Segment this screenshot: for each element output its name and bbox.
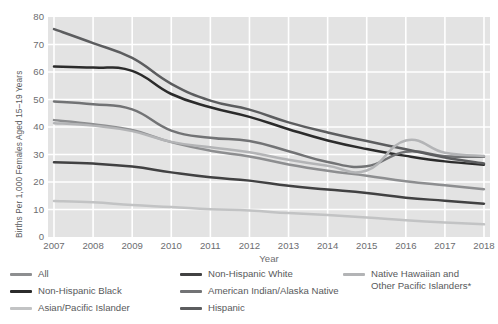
- series-line: [54, 29, 484, 163]
- legend-color-swatch: [10, 307, 32, 310]
- y-tick-label: 60: [18, 67, 44, 77]
- plot-svg: [48, 17, 490, 237]
- legend-item[interactable]: All: [10, 268, 130, 285]
- legend-color-swatch: [10, 273, 32, 276]
- legend-color-swatch: [180, 307, 202, 310]
- x-tick-label: 2008: [75, 240, 111, 252]
- y-tick-label: 10: [18, 205, 44, 215]
- legend-column: Native Hawaiian and Other Pacific Island…: [343, 268, 471, 298]
- legend-color-swatch: [180, 290, 202, 293]
- legend-item[interactable]: Native Hawaiian and Other Pacific Island…: [343, 268, 471, 298]
- legend-item-label: American Indian/Alaska Native: [208, 285, 339, 297]
- legend-item[interactable]: American Indian/Alaska Native: [180, 285, 339, 302]
- y-tick-label: 70: [18, 40, 44, 50]
- legend-color-swatch: [10, 290, 32, 293]
- legend-column: Non-Hispanic WhiteAmerican Indian/Alaska…: [180, 268, 339, 319]
- x-tick-label: 2012: [231, 240, 267, 252]
- x-tick-label: 2010: [153, 240, 189, 252]
- x-tick-label: 2017: [427, 240, 463, 252]
- legend-color-swatch: [180, 273, 202, 276]
- legend-item[interactable]: Non-Hispanic White: [180, 268, 339, 285]
- y-tick-label: 50: [18, 95, 44, 105]
- y-tick-label: 80: [18, 12, 44, 22]
- legend-item[interactable]: Asian/Pacific Islander: [10, 302, 130, 319]
- legend-item-label: Native Hawaiian and Other Pacific Island…: [371, 268, 471, 292]
- legend-item-label: Non-Hispanic White: [208, 268, 293, 280]
- y-axis-tick-labels: 80706050403020100: [18, 0, 44, 244]
- y-axis-title-container: Births Per 1,000 Females Aged 15–19 Year…: [0, 0, 18, 244]
- x-tick-label: 2007: [36, 240, 72, 252]
- series-line: [54, 201, 484, 224]
- legend-item-label: Asian/Pacific Islander: [38, 302, 130, 314]
- x-tick-label: 2016: [388, 240, 424, 252]
- x-axis-title: Year: [48, 253, 490, 264]
- x-tick-label: 2014: [310, 240, 346, 252]
- teen-birth-rate-line-chart: Births Per 1,000 Females Aged 15–19 Year…: [0, 0, 498, 324]
- y-tick-label: 40: [18, 122, 44, 132]
- legend-item-label: Hispanic: [208, 302, 245, 314]
- y-tick-label: 20: [18, 177, 44, 187]
- y-tick-label: 30: [18, 150, 44, 160]
- x-tick-label: 2013: [271, 240, 307, 252]
- x-tick-label: 2018: [466, 240, 498, 252]
- legend-item[interactable]: Non-Hispanic Black: [10, 285, 130, 302]
- legend-color-swatch: [343, 273, 365, 276]
- legend-item-label: All: [38, 268, 49, 280]
- x-tick-label: 2009: [114, 240, 150, 252]
- x-tick-label: 2011: [192, 240, 228, 252]
- plot-area: [48, 17, 490, 237]
- chart-legend: AllNon-Hispanic BlackAsian/Pacific Islan…: [10, 268, 490, 320]
- legend-item-label: Non-Hispanic Black: [38, 285, 122, 297]
- legend-item[interactable]: Hispanic: [180, 302, 339, 319]
- x-tick-label: 2015: [349, 240, 385, 252]
- legend-column: AllNon-Hispanic BlackAsian/Pacific Islan…: [10, 268, 130, 319]
